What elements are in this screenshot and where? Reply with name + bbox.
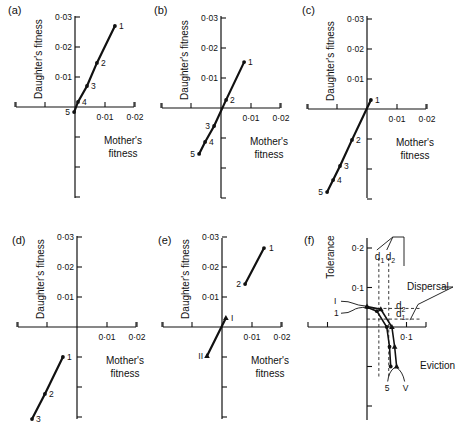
point-label: 2 <box>356 135 361 145</box>
x-axis-title-line1: Mother's <box>106 355 144 366</box>
circle-marker <box>203 140 207 144</box>
y-tick-label: 0·03 <box>201 13 218 23</box>
point-label: 1 <box>269 243 274 253</box>
circle-marker <box>61 355 65 359</box>
point-label: 4 <box>82 97 87 107</box>
point-label: 5 <box>65 107 70 117</box>
y-tick-label: 0·01 <box>347 74 364 84</box>
y-tick-label: 0·03 <box>202 232 219 242</box>
triangle-marker <box>392 344 398 349</box>
x-axis-title-line1: Mother's <box>104 135 142 146</box>
data-line <box>74 26 115 112</box>
panel-a: (a)0·010·020·010·020·03Daughter's fitnes… <box>8 4 144 198</box>
leader-line <box>341 307 367 313</box>
y-axis-title: Tolerance <box>325 235 336 279</box>
x-tick-label: 0·1 <box>400 332 413 342</box>
y-tick-label: 0·02 <box>347 44 364 54</box>
x-tick-label: 0·02 <box>418 114 435 124</box>
circle-marker <box>197 152 201 156</box>
y-tick-label: 0·02 <box>55 42 72 52</box>
point-label: 3 <box>205 121 210 131</box>
point-label: 3 <box>344 161 349 171</box>
circle-marker <box>30 417 34 421</box>
x-tick-label: 0·01 <box>98 332 115 342</box>
circle-marker <box>224 98 228 102</box>
circle-marker <box>95 61 99 65</box>
data-line <box>32 357 63 419</box>
point-label: 3 <box>36 414 41 424</box>
dispersal-label: Dispersal <box>407 281 449 292</box>
x-axis-title: Eviction <box>420 360 455 371</box>
series-end-label: V <box>403 383 409 393</box>
triangle-marker <box>223 315 229 320</box>
panel-label: (c) <box>302 4 315 16</box>
panel-d: (d)0·010·020·010·020·03Daughter's fitnes… <box>12 232 146 424</box>
point-label: II <box>198 351 203 361</box>
circle-marker <box>325 190 329 194</box>
circle-marker <box>76 100 80 104</box>
x-tick-label: 0·02 <box>126 112 143 122</box>
d1-label: d1 <box>375 251 385 264</box>
point-label: 4 <box>209 137 214 147</box>
y-tick-label: 0·01 <box>55 72 72 82</box>
circle-marker <box>350 138 354 142</box>
x-tick-label: 0·02 <box>273 332 290 342</box>
y-tick-label: 0·02 <box>202 262 219 272</box>
x-tick-label: 0·01 <box>96 112 113 122</box>
series-end-label: 5 <box>385 383 390 393</box>
x-axis-title-line2: fitness <box>401 150 430 161</box>
x-tick-label: 0·02 <box>272 113 289 123</box>
circle-marker <box>385 325 389 329</box>
series-start-label: I <box>334 296 336 306</box>
x-axis-title-line1: Mother's <box>396 137 434 148</box>
d2-label: d2 <box>386 251 396 264</box>
data-line-1 <box>367 306 397 366</box>
point-label: 1 <box>248 57 253 67</box>
y-axis-title: Daughter's fitness <box>35 239 46 319</box>
point-label: 3 <box>91 81 96 91</box>
circle-marker <box>72 110 76 114</box>
y-axis-title: Daughter's fitness <box>180 239 191 319</box>
point-label: 2 <box>230 95 235 105</box>
y-axis-title: Daughter's fitness <box>179 20 190 100</box>
point-label: 1 <box>67 352 72 362</box>
panel-label: (e) <box>158 234 171 246</box>
circle-marker <box>212 124 216 128</box>
x-axis-title-line2: fitness <box>111 368 140 379</box>
leader-line <box>341 301 367 306</box>
point-label: 4 <box>337 175 342 185</box>
circle-marker <box>113 24 117 28</box>
point-label: I <box>231 313 233 323</box>
y-tick-label: 0·01 <box>201 73 218 83</box>
panel-f: (f)0·10·10·2ToleranceEvictionI15Vd1d2d2d… <box>304 234 455 420</box>
panel-label: (f) <box>304 234 314 246</box>
circle-marker <box>85 84 89 88</box>
data-line <box>327 100 371 192</box>
x-tick-label: 0·01 <box>388 114 405 124</box>
x-tick-label: 0·01 <box>242 113 259 123</box>
panel-label: (b) <box>154 4 167 16</box>
circle-marker <box>262 246 266 250</box>
y-axis-title: Daughter's fitness <box>33 19 44 99</box>
circle-marker <box>369 98 373 102</box>
x-tick-label: 0·02 <box>128 332 145 342</box>
point-label: 2 <box>101 58 106 68</box>
point-label: 2 <box>49 389 54 399</box>
circle-marker <box>389 365 393 369</box>
circle-marker <box>243 282 247 286</box>
x-axis-title-line2: fitness <box>255 149 284 160</box>
y-tick-label: 0·1 <box>352 283 365 293</box>
data-line-triangles <box>207 318 226 356</box>
y-tick-label: 0·02 <box>201 43 218 53</box>
circle-marker <box>388 345 392 349</box>
point-label: 5 <box>318 187 323 197</box>
y-axis-title: Daughter's fitness <box>325 21 336 101</box>
data-line-circles <box>245 248 264 284</box>
x-axis-title-line1: Mother's <box>250 136 288 147</box>
panel-e: (e)0·010·020·010·020·03Daughter's fitnes… <box>158 232 291 419</box>
x-axis-title-line2: fitness <box>109 148 138 159</box>
panel-label: (d) <box>12 234 25 246</box>
y-tick-label: 0·03 <box>57 232 74 242</box>
x-axis-title-line1: Mother's <box>251 355 289 366</box>
y-tick-label: 0·01 <box>202 292 219 302</box>
